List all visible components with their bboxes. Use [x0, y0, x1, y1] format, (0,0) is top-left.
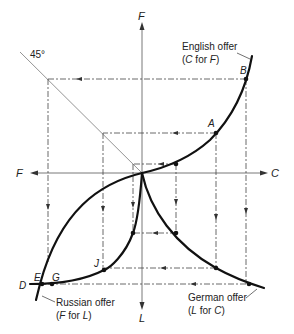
offer-curve-diagram: F F C L 45° B A J E G D English offer (C… — [0, 0, 294, 334]
c-axis-arrow-icon — [260, 171, 268, 176]
l-axis-arrow-icon — [140, 302, 145, 310]
english-offer-curve — [142, 56, 252, 173]
axis-label-c: C — [271, 167, 279, 179]
russian-offer-label: Russian offer (F for L) — [42, 296, 115, 321]
f-axis-arrow-icon — [140, 22, 145, 30]
point-inner-upper — [174, 162, 179, 167]
diagonal-label: 45° — [30, 49, 45, 60]
russian-offer-curve — [30, 173, 142, 284]
label-b: B — [240, 65, 247, 76]
f-left-axis-arrow-icon — [30, 171, 38, 176]
point-a — [214, 131, 219, 136]
axis-label-f-top: F — [138, 10, 146, 22]
equilibrium-points — [40, 77, 252, 287]
english-offer-label: English offer (C for F) — [182, 41, 250, 65]
45-degree-line — [20, 52, 142, 173]
label-g: G — [52, 272, 60, 283]
point-inner-left — [131, 231, 136, 236]
axis-label-l: L — [139, 312, 145, 324]
svg-text:German offer: German offer — [188, 292, 247, 303]
german-offer-label: German offer (L for C) — [188, 289, 257, 316]
svg-text:(F for L): (F for L) — [56, 310, 92, 321]
label-j: J — [93, 258, 100, 269]
label-d: D — [19, 280, 26, 291]
label-a: A — [207, 118, 215, 129]
axis-label-f-left: F — [16, 167, 24, 179]
construction-lines — [30, 77, 248, 286]
point-german-b — [247, 282, 252, 287]
point-inner-right — [174, 231, 179, 236]
svg-text:(L for C): (L for C) — [188, 305, 225, 316]
point-b — [244, 77, 249, 82]
svg-text:(C for F): (C for F) — [182, 54, 219, 65]
svg-text:Russian offer: Russian offer — [56, 297, 115, 308]
axes — [30, 22, 268, 310]
point-german-a — [214, 266, 219, 271]
svg-text:English offer: English offer — [182, 41, 238, 52]
label-e: E — [34, 272, 41, 283]
point-j — [102, 268, 107, 273]
